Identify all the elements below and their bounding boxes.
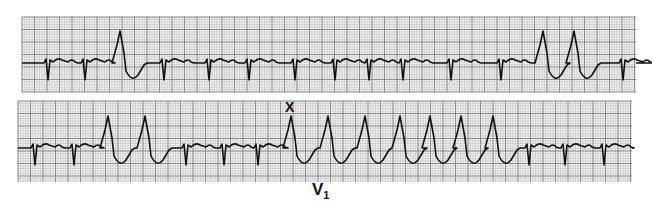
lead-number: 1 (323, 189, 329, 201)
x-marker: X (285, 100, 294, 114)
ecg-strip-bottom (0, 95, 652, 190)
lead-label-v1: V1 (312, 180, 329, 201)
ecg-trace-top (0, 0, 652, 100)
ecg-trace-bottom (0, 95, 652, 190)
lead-letter: V (312, 180, 323, 199)
ecg-strip-top (0, 0, 652, 100)
